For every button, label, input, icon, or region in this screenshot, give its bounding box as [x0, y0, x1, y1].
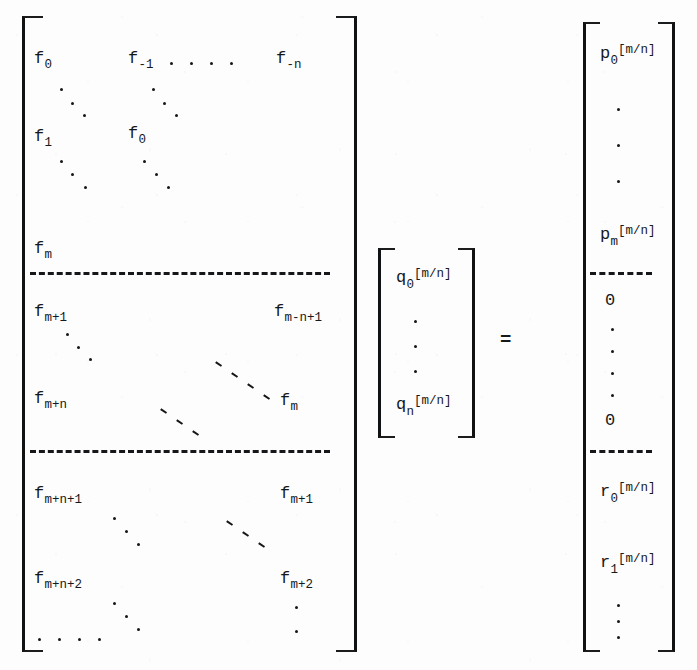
- matrix-entry-fm-plus-2: fm+2: [280, 570, 313, 592]
- rhs-entry-p-m: pm[m/n]: [600, 225, 655, 248]
- matrix-open-bracket: [22, 16, 43, 652]
- matrix-entry-fm-plus-1-bottom: fm+1: [280, 485, 313, 507]
- q-vector-close-bracket: [458, 248, 475, 438]
- matrix-entry-fm-plus-n-plus-2: fm+n+2: [34, 570, 82, 592]
- matrix-entry-f0-top-left: f0: [34, 50, 52, 72]
- matrix-entry-fm-plus-1: fm+1: [34, 303, 67, 325]
- matrix-entry-f-minus-n: f-n: [276, 50, 301, 72]
- matrix-entry-fm-plus-n-plus-1: fm+n+1: [34, 485, 82, 507]
- q-vector-entry-n: qn[m/n]: [396, 395, 451, 418]
- matrix-close-bracket: [336, 16, 357, 652]
- rhs-partition-line-1: [590, 272, 652, 275]
- matrix-entry-fm-middle-right: fm: [280, 392, 298, 414]
- rhs-vector-close-bracket: [658, 22, 675, 652]
- matrix-partition-line-2: [30, 450, 330, 453]
- matrix-entry-f1: f1: [34, 128, 52, 150]
- equation-figure: f0 f-1 f-n f1 f0 fm: [0, 0, 697, 670]
- rhs-entry-zero-last: 0: [605, 412, 615, 429]
- matrix-entry-fm-plus-n: fm+n: [34, 390, 67, 412]
- rhs-entry-zero-first: 0: [605, 292, 615, 309]
- q-vector-entry-0: q0[m/n]: [396, 268, 451, 291]
- matrix-partition-line-1: [30, 272, 330, 275]
- matrix-entry-f0-second-row: f0: [128, 125, 146, 147]
- rhs-partition-line-2: [590, 450, 652, 453]
- rhs-entry-r-1: r1[m/n]: [600, 553, 655, 576]
- rhs-vector-open-bracket: [583, 22, 600, 652]
- matrix-entry-f-minus-1: f-1: [128, 50, 153, 72]
- rhs-entry-r-0: r0[m/n]: [600, 482, 655, 505]
- q-vector-open-bracket: [378, 248, 395, 438]
- matrix-entry-fm-minus-n-plus-1: fm-n+1: [274, 303, 322, 325]
- matrix-entry-fm: fm: [34, 240, 52, 262]
- equals-sign: =: [500, 331, 511, 350]
- rhs-entry-p-0: p0[m/n]: [600, 44, 655, 67]
